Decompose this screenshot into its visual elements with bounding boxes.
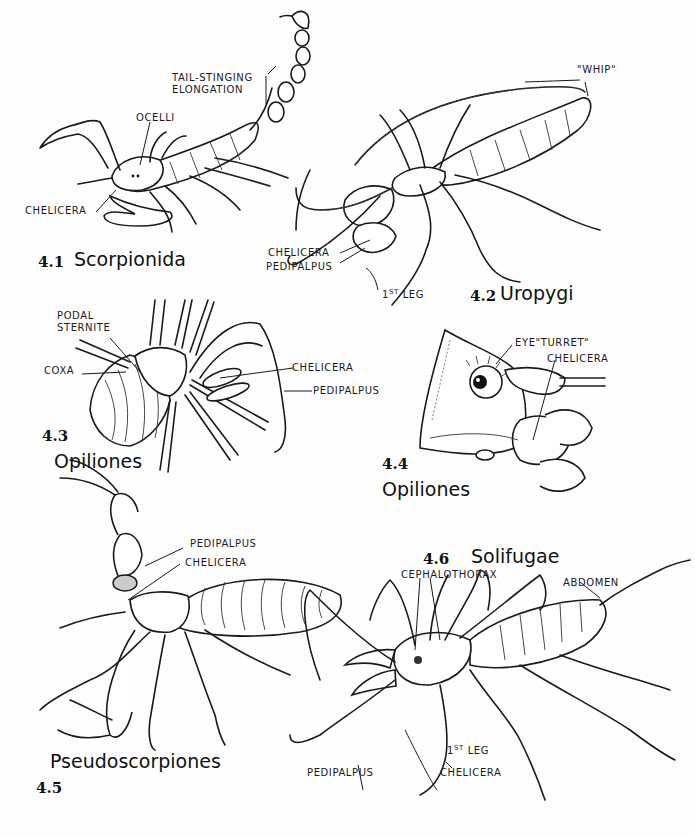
label-pedipalpus-solifugae: PEDIPALPUS (307, 767, 374, 779)
label-pedipalpus-opiliones: PEDIPALPUS (313, 385, 380, 397)
label-chelicera-pseudoscorpion: CHELICERA (185, 557, 246, 569)
uropygi-drawing (288, 80, 600, 305)
figure-number-4-4: 4.4 (382, 455, 408, 473)
scorpion-drawing (40, 12, 310, 232)
opiliones-ventral-drawing (76, 300, 312, 472)
label-abdomen: ABDOMEN (563, 577, 619, 589)
label-first-leg-uropygi: 1ST LEG (382, 286, 424, 301)
figure-name-uropygi: Uropygi (500, 282, 574, 304)
figure-name-opiliones-1: Opiliones (54, 450, 142, 472)
arachnid-illustrations (0, 0, 695, 837)
figure-number-4-3: 4.3 (42, 427, 68, 445)
label-tail-stinging-2: ELONGATION (172, 84, 243, 96)
label-chelicera-opiliones-head: CHELICERA (547, 353, 608, 365)
label-first-leg-solifugae: 1ST LEG (447, 742, 489, 757)
figure-name-solifugae: Solifugae (471, 545, 559, 567)
arachnid-plate: TAIL-STINGING ELONGATION OCELLI CHELICER… (0, 0, 695, 837)
pseudoscorpion-drawing (40, 460, 341, 750)
label-sternite: STERNITE (57, 322, 110, 334)
label-tail-stinging-1: TAIL-STINGING (172, 72, 253, 84)
label-podal: PODAL (57, 310, 94, 322)
figure-number-4-2: 4.2 (470, 287, 496, 305)
label-whip: "WHIP" (577, 64, 616, 76)
label-chelicera-scorpion: CHELICERA (25, 205, 86, 217)
label-pedipalpus-uropygi: PEDIPALPUS (266, 261, 333, 273)
label-coxa: COXA (44, 365, 74, 377)
figure-number-4-1: 4.1 (38, 253, 64, 271)
figure-name-opiliones-2: Opiliones (382, 478, 470, 500)
label-chelicera-solifugae: CHELICERA (440, 767, 501, 779)
solifugae-drawing (290, 560, 690, 800)
label-chelicera-uropygi: CHELICERA (268, 247, 329, 259)
figure-number-4-6: 4.6 (423, 550, 449, 568)
label-ocelli: OCELLI (136, 112, 175, 124)
label-chelicera-opiliones: CHELICERA (292, 362, 353, 374)
figure-name-pseudoscorpiones: Pseudoscorpiones (50, 750, 221, 772)
figure-number-4-5: 4.5 (36, 779, 62, 797)
label-eye-turret: EYE"TURRET" (515, 337, 589, 349)
figure-name-scorpionida: Scorpionida (74, 248, 186, 270)
label-cephalothorax: CEPHALOTHORAX (401, 569, 497, 581)
label-pedipalpus-pseudoscorpion: PEDIPALPUS (190, 538, 257, 550)
